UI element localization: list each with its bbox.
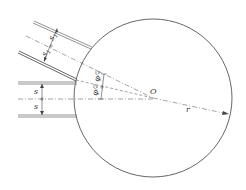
label-s1-upper: s1: [47, 31, 59, 42]
horizontal-width-arrow-bottom: [40, 111, 44, 115]
label-center-o: O: [150, 87, 157, 96]
radius-arrowhead: [222, 111, 229, 115]
label-s-upper: s: [34, 87, 38, 96]
horizontal-width-arrow-top: [40, 84, 44, 88]
label-phi-half-upper: φ/2: [92, 69, 104, 82]
radius-line: [153, 98, 228, 114]
inclined-channel-top-wall-inner: [33, 23, 91, 49]
inclined-centerline: [26, 36, 153, 98]
inclined-channel-top-wall: [34, 21, 92, 47]
diagram-canvas: s1 s1 s s φ/2 φ/2 O r: [0, 0, 246, 190]
label-phi-half-lower: φ/2: [90, 83, 102, 96]
horizontal-channel: [18, 82, 153, 117]
label-s-lower: s: [34, 102, 38, 111]
bisector-line: [76, 80, 153, 98]
inclined-channel: [18, 21, 153, 98]
label-radius-r: r: [186, 105, 191, 114]
label-s1-lower: s1: [40, 47, 52, 58]
